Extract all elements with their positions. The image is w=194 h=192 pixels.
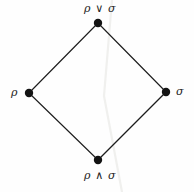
edge-rho-to-join [29,23,98,93]
lattice-diagram-figure: ρ ∨ σ ρ σ ρ ∧ σ [0,0,194,192]
node-label-sigma: σ [176,86,184,97]
node-meet [94,156,102,164]
edge-meet-to-sigma [98,92,166,160]
node-label-meet: ρ ∧ σ [84,170,116,181]
node-label-rho: ρ [11,87,18,98]
node-rho [25,89,33,97]
node-join [94,19,102,27]
node-sigma [162,88,170,96]
edge-rho-to-meet [29,93,98,160]
scan-artifact-streak [104,0,122,192]
lattice-edges-group [29,23,166,160]
node-label-join: ρ ∨ σ [84,3,116,14]
lattice-nodes-group [25,19,170,164]
lattice-diagram-canvas [0,0,194,192]
